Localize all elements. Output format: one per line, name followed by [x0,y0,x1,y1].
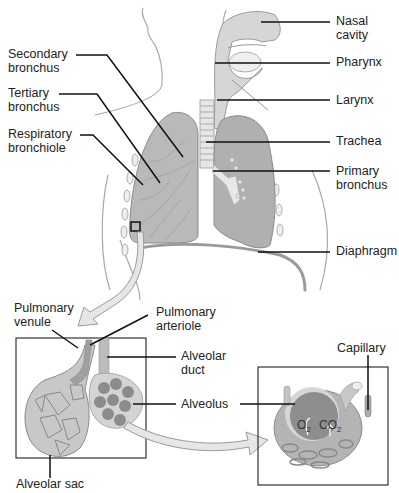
label-larynx: Larynx [336,93,374,107]
label-pharynx: Pharynx [336,55,382,69]
right-lung [212,116,275,248]
label-nasal-cavity: Nasal cavity [336,14,368,42]
label-pulmonary-venule: Pulmonary venule [14,301,74,329]
oxygen-label: O2 [297,418,311,434]
label-capillary: Capillary [337,341,386,355]
label-diaphragm: Diaphragm [336,244,397,258]
alveolus-cluster [89,373,143,428]
nasal-cavity-shape [214,12,280,130]
label-tertiary-bronchus: Tertiary bronchus [8,86,59,114]
label-respiratory-bronchiole: Respiratory bronchiole [8,127,72,155]
diaphragm-shape [140,244,305,290]
label-alveolar-duct: Alveolar duct [181,349,226,377]
label-alveolar-sac: Alveolar sac [16,477,84,491]
trachea-shape [200,100,214,168]
label-secondary-bronchus: Secondary bronchus [8,47,68,75]
label-alveolus: Alveolus [181,397,228,411]
zoom-arrow [78,232,144,326]
label-pulmonary-arteriole: Pulmonary arteriole [156,305,216,333]
label-primary-bronchus: Primary bronchus [336,164,387,192]
carbon-dioxide-label: CO2 [319,418,341,434]
label-trachea: Trachea [336,134,381,148]
